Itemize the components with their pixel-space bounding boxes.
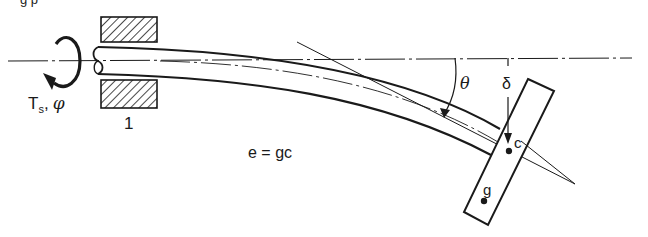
torque-arrowhead-icon: [43, 73, 56, 90]
point-g-marker: [481, 198, 487, 204]
support-block-bottom: [101, 80, 157, 108]
theta-label: θ: [460, 74, 470, 93]
support-number-label: 1: [124, 114, 133, 133]
eccentricity-equation: e = gc: [248, 144, 292, 161]
torque-label: Ts,φ: [28, 93, 65, 115]
point-g-label: g: [483, 181, 491, 198]
caption-fragment: g p: [20, 0, 38, 7]
support-block-top: [101, 17, 157, 42]
torque-arc: [54, 38, 80, 87]
point-c-marker: [506, 148, 512, 154]
shaft-deflection-diagram: g p c g θ δ Ts,φ 1 e = gc: [0, 0, 648, 237]
shaft-centerline: [160, 61, 498, 142]
bearing-support: [101, 17, 157, 108]
delta-label: δ: [502, 75, 511, 92]
horizontal-centerline: [8, 58, 632, 61]
point-c-label: c: [514, 134, 522, 151]
